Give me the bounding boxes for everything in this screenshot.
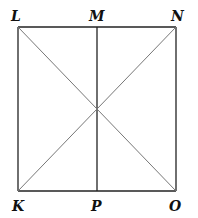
- label-O: O: [169, 198, 182, 214]
- label-K: K: [11, 198, 25, 214]
- label-L: L: [10, 8, 21, 24]
- label-P: P: [90, 198, 102, 214]
- geometry-diagram: L M N K P O: [0, 0, 198, 218]
- label-M: M: [88, 8, 105, 24]
- label-N: N: [170, 8, 185, 24]
